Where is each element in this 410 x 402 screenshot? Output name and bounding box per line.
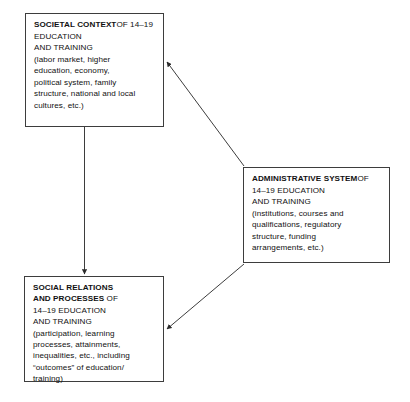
node-societal-context-title: SOCIETAL CONTEXTOF 14–19 EDUCATION AND T… (34, 19, 156, 54)
node-societal-context-detail: (labor market, higher education, economy… (34, 54, 156, 112)
diagram-canvas: SOCIETAL CONTEXTOF 14–19 EDUCATION AND T… (0, 0, 410, 402)
node-administrative-system-title: ADMINISTRATIVE SYSTEMOF 14–19 EDUCATION … (252, 173, 382, 208)
node-societal-context-heading: SOCIETAL CONTEXT (34, 20, 116, 29)
connector-administrative-to-societal (167, 62, 244, 166)
node-social-relations-title: SOCIAL RELATIONS AND PROCESSES OF 14–19 … (33, 282, 156, 328)
connector-administrative-to-social (167, 264, 244, 329)
node-administrative-system-heading: ADMINISTRATIVE SYSTEM (252, 174, 357, 183)
node-societal-context: SOCIETAL CONTEXTOF 14–19 EDUCATION AND T… (25, 13, 164, 127)
node-administrative-system: ADMINISTRATIVE SYSTEMOF 14–19 EDUCATION … (243, 167, 390, 263)
node-social-relations: SOCIAL RELATIONS AND PROCESSES OF 14–19 … (24, 276, 164, 382)
node-social-relations-detail: (participation, learning processes, atta… (33, 328, 156, 385)
node-social-relations-heading: SOCIAL RELATIONS AND PROCESSES (33, 283, 113, 303)
node-administrative-system-detail: (institutions, courses and qualification… (252, 208, 382, 254)
